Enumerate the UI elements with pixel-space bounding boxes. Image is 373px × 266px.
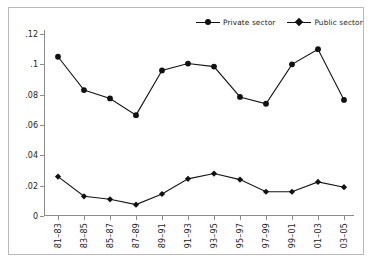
legend-item-private-sector[interactable]: Private sector [196, 18, 275, 27]
data-point[interactable] [159, 68, 165, 74]
data-point[interactable] [263, 189, 269, 195]
series-layer [44, 30, 354, 216]
x-axis-tick [188, 216, 189, 220]
data-point[interactable] [185, 176, 191, 182]
x-axis-tick-label: 03–05 [340, 223, 349, 248]
y-axis-tick-label: .08 [25, 90, 38, 99]
chart-legend: Private sector Public sector [196, 15, 362, 30]
y-axis-tick-label: .12 [25, 30, 38, 39]
x-axis-tick-label: 81–83 [54, 223, 63, 248]
data-point[interactable] [185, 61, 191, 67]
y-axis-tick-label: .04 [25, 151, 38, 160]
chart-figure: Private sector Public sector 0.02.04.06.… [0, 0, 373, 266]
data-point[interactable] [341, 184, 347, 190]
legend-item-public-sector[interactable]: Public sector [287, 18, 362, 27]
legend-label-public-sector: Public sector [314, 18, 362, 27]
data-point[interactable] [237, 177, 243, 183]
data-point[interactable] [263, 101, 269, 107]
data-point[interactable] [159, 191, 165, 197]
y-axis-tick-label: .06 [25, 121, 38, 130]
x-axis-tick [266, 216, 267, 220]
data-point[interactable] [211, 170, 217, 176]
x-axis-tick-label: 91–93 [184, 223, 193, 248]
data-point[interactable] [315, 179, 321, 185]
data-point[interactable] [289, 61, 295, 67]
x-axis-tick [240, 216, 241, 220]
x-axis-tick [344, 216, 345, 220]
x-axis-tick-label: 85–87 [106, 223, 115, 248]
data-point[interactable] [133, 112, 139, 118]
y-axis-tick [40, 216, 44, 217]
x-axis-tick-label: 01–03 [314, 223, 323, 248]
x-axis-tick-label: 89–91 [158, 223, 167, 248]
x-axis-tick [136, 216, 137, 220]
legend-swatch-public-sector [287, 18, 311, 27]
diamond-icon [295, 18, 303, 26]
circle-icon [205, 19, 211, 25]
legend-swatch-private-sector [196, 18, 220, 27]
data-point[interactable] [81, 87, 87, 93]
data-point[interactable] [211, 64, 217, 70]
x-axis-tick-label: 83–85 [80, 223, 89, 248]
x-axis-tick-label: 97–99 [262, 223, 271, 248]
data-point[interactable] [107, 96, 113, 102]
x-axis-tick [58, 216, 59, 220]
x-axis-tick-label: 87–89 [132, 223, 141, 248]
x-axis-tick-label: 95–97 [236, 223, 245, 248]
data-point[interactable] [341, 97, 347, 103]
x-axis-tick [292, 216, 293, 220]
x-axis-tick [84, 216, 85, 220]
plot-area: 0.02.04.06.08.1.12 81–8383–8585–8787–898… [44, 34, 354, 216]
data-point[interactable] [315, 46, 321, 52]
data-point[interactable] [133, 202, 139, 208]
x-axis-tick [318, 216, 319, 220]
data-point[interactable] [237, 94, 243, 100]
data-point[interactable] [107, 196, 113, 202]
x-axis-tick [110, 216, 111, 220]
legend-label-private-sector: Private sector [223, 18, 275, 27]
series-line-private-sector [58, 49, 344, 115]
y-axis-tick-label: .1 [30, 60, 38, 69]
x-axis-tick-label: 93–95 [210, 223, 219, 248]
y-axis-tick-label: 0 [33, 212, 38, 221]
series-line-public-sector [58, 174, 344, 205]
x-axis-tick [214, 216, 215, 220]
y-axis-tick-label: .02 [25, 181, 38, 190]
x-axis-tick-label: 99–01 [288, 223, 297, 248]
data-point[interactable] [289, 189, 295, 195]
x-axis-tick [162, 216, 163, 220]
data-point[interactable] [55, 54, 61, 60]
